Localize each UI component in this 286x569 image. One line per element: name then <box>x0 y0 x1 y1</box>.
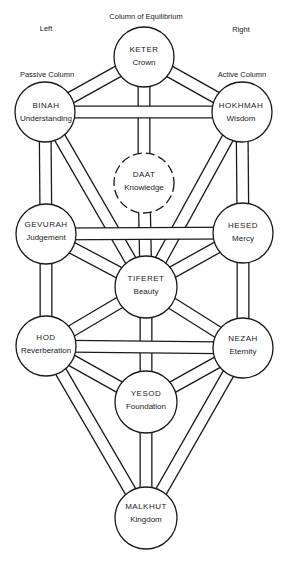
sefirah-name: DAAT <box>124 168 164 181</box>
sefirah-meaning: Eternity <box>228 345 258 358</box>
sefirah-meaning: Crown <box>129 56 158 69</box>
sefirah-name: MALKHUT <box>125 500 167 513</box>
sefirah-meaning: Understanding <box>20 112 72 125</box>
left-label: Left <box>40 24 53 33</box>
node-label-tiferet: TIFERET Beauty <box>128 272 165 298</box>
node-label-nezah: NEZAH Eternity <box>228 332 258 358</box>
sefirah-meaning: Judgement <box>24 231 67 244</box>
column-of-equilibrium-label: Column of Equilibrium <box>109 12 182 21</box>
sefirah-name: TIFERET <box>128 272 165 285</box>
sefirah-meaning: Reverberation <box>21 344 71 357</box>
node-label-malkhut: MALKHUT Kingdom <box>125 500 167 526</box>
sefirah-meaning: Kingdom <box>125 513 167 526</box>
node-label-binah: BINAH Understanding <box>20 99 72 125</box>
sefirah-meaning: Wisdom <box>219 112 263 125</box>
node-label-hesed: HESED Mercy <box>228 219 258 245</box>
node-label-hod: HOD Reverberation <box>21 331 71 357</box>
passive-column-label: Passive Column <box>20 70 74 79</box>
sefirah-name: YESOD <box>126 387 166 400</box>
sefirah-meaning: Foundation <box>126 400 166 413</box>
active-column-label: Active Column <box>218 70 266 79</box>
sefirah-name: BINAH <box>20 99 72 112</box>
node-label-yesod: YESOD Foundation <box>126 387 166 413</box>
sefirah-name: HESED <box>228 219 258 232</box>
node-label-keter: KETER Crown <box>129 43 158 69</box>
sefirah-name: GEVURAH <box>24 218 67 231</box>
node-label-daat: DAAT Knowledge <box>124 168 164 194</box>
sefirah-meaning: Beauty <box>128 285 165 298</box>
sefirah-name: NEZAH <box>228 332 258 345</box>
sefirah-meaning: Knowledge <box>124 181 164 194</box>
sefirah-name: KETER <box>129 43 158 56</box>
node-label-gevurah: GEVURAH Judgement <box>24 218 67 244</box>
sefirah-name: HOKHMAH <box>219 99 263 112</box>
right-label: Right <box>232 25 250 34</box>
node-label-hokhmah: HOKHMAH Wisdom <box>219 99 263 125</box>
sefirah-meaning: Mercy <box>228 232 258 245</box>
sefirah-name: HOD <box>21 331 71 344</box>
